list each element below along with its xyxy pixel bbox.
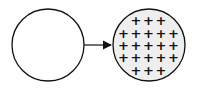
plus-charge: +	[156, 63, 167, 78]
plus-charge: +	[168, 50, 179, 65]
diagram-canvas: +++++++++++++++++++++	[0, 0, 197, 91]
plus-charge: +	[131, 63, 142, 78]
plus-charge: +	[143, 63, 154, 78]
plus-charge: +	[118, 50, 129, 65]
empty-circle	[12, 9, 84, 81]
